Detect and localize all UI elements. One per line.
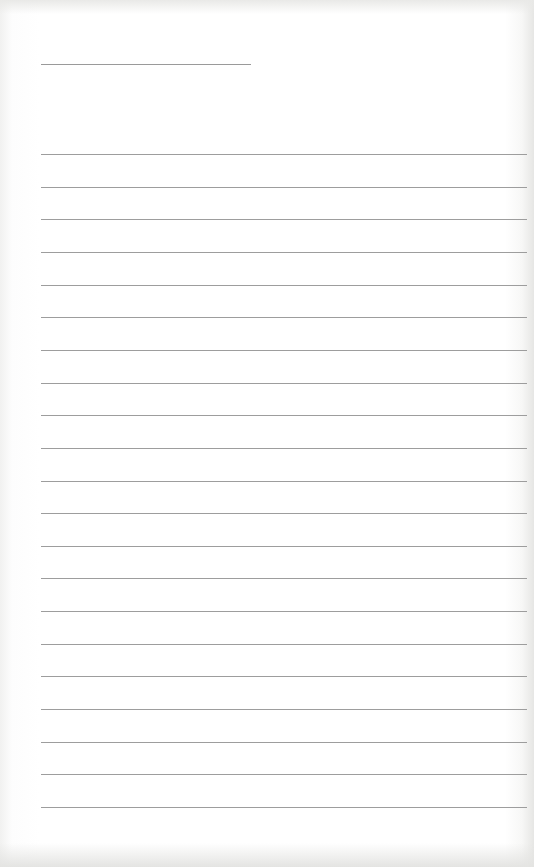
- ruled-line: [41, 415, 527, 416]
- ruled-line: [41, 383, 527, 384]
- ruled-line: [41, 742, 527, 743]
- ruled-line: [41, 285, 527, 286]
- ruled-line: [41, 513, 527, 514]
- ruled-line: [41, 611, 527, 612]
- ruled-line: [41, 709, 527, 710]
- ruled-line: [41, 252, 527, 253]
- ruled-line: [41, 187, 527, 188]
- ruled-line: [41, 481, 527, 482]
- ruled-line: [41, 578, 527, 579]
- ruled-line: [41, 774, 527, 775]
- header-name-line: [41, 64, 251, 65]
- ruled-line: [41, 448, 527, 449]
- ruled-paper-page: [0, 0, 534, 867]
- ruled-line: [41, 546, 527, 547]
- ruled-line: [41, 219, 527, 220]
- ruled-line: [41, 154, 527, 155]
- ruled-line: [41, 317, 527, 318]
- ruled-line: [41, 350, 527, 351]
- ruled-line: [41, 807, 527, 808]
- ruled-line: [41, 676, 527, 677]
- ruled-line: [41, 644, 527, 645]
